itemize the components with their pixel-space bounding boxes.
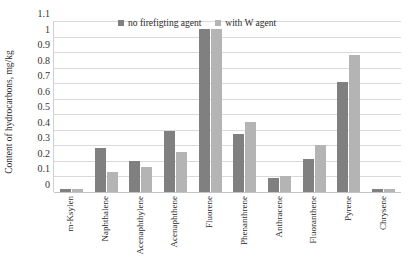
y-axis-tick-label: 0.3 (16, 133, 50, 143)
bar (349, 55, 360, 192)
x-axis-tick-label: Acenaphthylene (135, 196, 144, 254)
legend-swatch-icon (118, 20, 124, 26)
bar (245, 122, 256, 192)
x-axis-tick: Acenaphthylene (122, 192, 157, 280)
x-axis-tick: Fluorene (192, 192, 227, 280)
legend-swatch-icon (215, 20, 221, 26)
x-axis-tick-label: Chrysene (378, 196, 387, 230)
x-axis-tick-label: m-Ksylen (66, 196, 75, 232)
legend-label: with W agent (225, 18, 276, 28)
legend-item[interactable]: with W agent (215, 18, 276, 28)
bar (141, 167, 152, 192)
x-axis-tick: Acenaphthene (157, 192, 192, 280)
x-axis-tick-labels: m-KsylenNaphthaleneAcenaphthyleneAcenaph… (53, 192, 400, 280)
y-axis-tick-label: 0.2 (16, 149, 50, 159)
x-axis-tick: Anthracene (261, 192, 296, 280)
x-axis-tick-label: Pyrene (343, 196, 352, 221)
bar (337, 82, 348, 192)
x-axis-tick: m-Ksylen (53, 192, 88, 280)
x-axis-tick: Phenanthrene (227, 192, 262, 280)
bar-group (366, 21, 401, 192)
y-axis-tick-label: 0.4 (16, 118, 50, 128)
bar-group (262, 21, 297, 192)
bar (95, 148, 106, 192)
legend-item[interactable]: no firefigting agent (118, 18, 201, 28)
bar (303, 159, 314, 192)
legend: no firefigting agentwith W agent (118, 16, 276, 29)
x-axis-tick-label: Anthracene (274, 196, 283, 237)
y-axis-tick-label: 1.1 (16, 9, 50, 19)
bar (315, 145, 326, 192)
bar-group (123, 21, 158, 192)
bar-group (332, 21, 367, 192)
x-axis-tick: Naphthalene (88, 192, 123, 280)
y-axis-tick-label: 0.6 (16, 87, 50, 97)
legend-label: no firefigting agent (128, 18, 201, 28)
bar-group (228, 21, 263, 192)
x-axis-tick-label: Acenaphthene (170, 196, 179, 247)
x-axis-tick-label: Naphthalene (101, 196, 110, 241)
bar-group (193, 21, 228, 192)
y-axis-tick-labels: 1.110.90.80.70.60.50.40.30.20.10 (16, 14, 50, 192)
bar (164, 131, 175, 192)
x-axis-tick-label: Phenanthrene (239, 196, 248, 245)
bar (268, 178, 279, 192)
y-axis-tick-label: 1 (16, 25, 50, 35)
x-axis-tick: Fluoranthene (296, 192, 331, 280)
y-axis-tick-label: 0.8 (16, 56, 50, 66)
bar-chart: Content of hydrocarbons, mg/kg 1.110.90.… (0, 0, 419, 280)
x-axis-tick-label: Fluoranthene (309, 196, 318, 244)
bar-group (54, 21, 89, 192)
plot-area (53, 21, 401, 192)
bar (199, 29, 210, 192)
bar (107, 172, 118, 192)
x-axis-tick: Chrysene (365, 192, 400, 280)
y-axis-title: Content of hydrocarbons, mg/kg (2, 12, 16, 212)
y-axis-tick-label: 0.1 (16, 164, 50, 174)
bar (129, 161, 140, 192)
x-axis-tick: Pyrene (331, 192, 366, 280)
y-axis-tick-label: 0.5 (16, 102, 50, 112)
bar-group (297, 21, 332, 192)
bar (280, 176, 291, 192)
bar (211, 29, 222, 192)
bar (176, 152, 187, 192)
bar (233, 134, 244, 192)
y-axis-tick-label: 0.7 (16, 71, 50, 81)
bar-group (158, 21, 193, 192)
bars-layer (54, 21, 401, 192)
y-axis-tick-label: 0.9 (16, 40, 50, 50)
bar-group (89, 21, 124, 192)
x-axis-tick-label: Fluorene (205, 196, 214, 228)
y-axis-tick-label: 0 (16, 180, 50, 190)
